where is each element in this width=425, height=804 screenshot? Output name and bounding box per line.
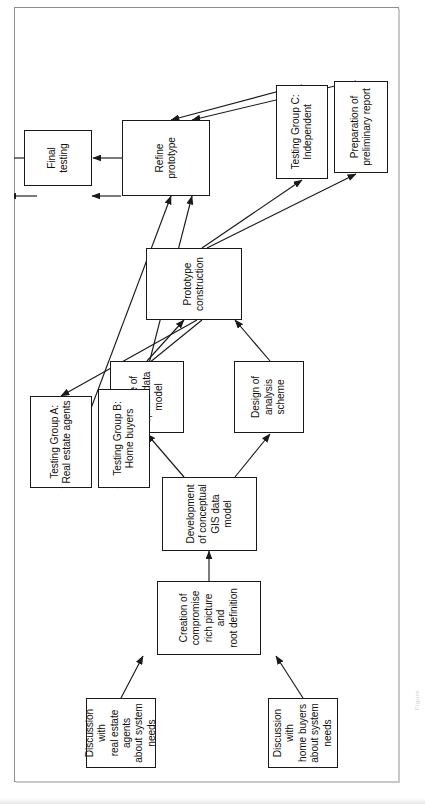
edge-gis-model-to-spatial-model	[147, 434, 184, 477]
flowchart-canvas: Discussion with real estate agents about…	[14, 7, 399, 782]
node-testing-group-c[interactable]: Testing Group C: Independent	[276, 85, 328, 179]
node-discussion-home-buyers[interactable]: Discussion with home buyers about system…	[268, 698, 338, 768]
node-discussion-real-estate-agents[interactable]: Discussion with real estate agents about…	[86, 698, 156, 768]
edge-prototype-to-prelim-report	[207, 174, 356, 248]
node-final-testing[interactable]: Final testing	[24, 130, 92, 186]
node-label: Prototype construction	[182, 257, 207, 311]
edge-spatial-model-to-prototype	[147, 320, 184, 361]
node-label: Testing Group C: Independent	[290, 95, 315, 170]
node-label: Creation of compromise rich picture and …	[178, 585, 240, 651]
node-label: Development of conceptual GIS data model	[185, 484, 235, 543]
edge-discuss-buyers-to-rich-picture	[276, 656, 303, 698]
node-label: Testing Group A: Real estate agents	[49, 400, 74, 483]
edge-prototype-to-group-c	[202, 180, 302, 248]
node-label: Final testing	[46, 143, 71, 172]
node-development-gis-data-model[interactable]: Development of conceptual GIS data model	[162, 477, 257, 551]
edge-analysis-scheme-to-prototype	[235, 320, 270, 361]
node-prototype-construction[interactable]: Prototype construction	[146, 248, 242, 320]
scanned-page: Discussion with real estate agents about…	[0, 0, 425, 804]
node-label: Discussion with real estate agents about…	[84, 702, 158, 764]
node-label: Design of analysis scheme	[250, 376, 287, 418]
page-edge-caption: Figure	[409, 600, 425, 800]
node-label: Preparation of preliminary report	[349, 88, 374, 165]
node-label: Testing Group B: Home buyers	[112, 401, 137, 475]
node-creation-rich-picture[interactable]: Creation of compromise rich picture and …	[157, 581, 261, 655]
node-design-analysis-scheme[interactable]: Design of analysis scheme	[234, 361, 304, 433]
figure-rotation-wrapper: Discussion with real estate agents about…	[14, 7, 399, 782]
edge-discuss-agents-to-rich-picture	[121, 656, 143, 698]
node-preparation-preliminary-report[interactable]: Preparation of preliminary report	[334, 81, 388, 173]
node-label: Refine prototype	[154, 137, 179, 179]
node-label: Discussion with home buyers about system…	[272, 702, 334, 764]
node-testing-group-b[interactable]: Testing Group B: Home buyers	[98, 389, 150, 488]
edge-prelim-report-to-refine	[192, 81, 356, 120]
node-refine-prototype[interactable]: Refine prototype	[122, 120, 210, 196]
page-edge-caption-text: Figure	[414, 690, 420, 711]
scan-shadow-band	[0, 798, 425, 804]
edge-gis-model-to-analysis-scheme	[235, 434, 270, 477]
node-testing-group-a[interactable]: Testing Group A: Real estate agents	[30, 396, 92, 488]
